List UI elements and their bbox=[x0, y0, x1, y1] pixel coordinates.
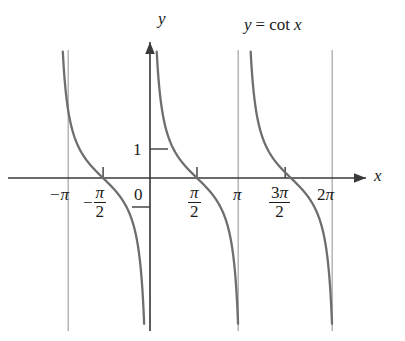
x-tick-label-three-half-pi: 3π2 bbox=[269, 186, 290, 223]
y-tick-label-one: 1 bbox=[133, 141, 142, 158]
plot-canvas bbox=[0, 0, 405, 341]
fraction-denominator: 2 bbox=[94, 203, 107, 221]
y-axis-arrowhead bbox=[145, 42, 155, 54]
fraction-denominator: 2 bbox=[188, 203, 201, 221]
two-glyph: 2 bbox=[317, 185, 326, 204]
fraction: π2 bbox=[188, 184, 201, 221]
fraction: π2 bbox=[94, 184, 107, 221]
x-tick-label-origin: 0 bbox=[134, 186, 143, 203]
pi-glyph: π bbox=[61, 185, 70, 204]
x-tick-label-neg-pi: −π bbox=[50, 186, 69, 205]
function-label-lhs: y bbox=[244, 15, 252, 34]
y-axis-label: y bbox=[158, 10, 166, 27]
x-axis-label: x bbox=[374, 167, 382, 184]
x-tick-label-two-pi: 2π bbox=[317, 186, 334, 203]
function-label: y=cotx bbox=[244, 16, 301, 33]
x-axis-arrowhead bbox=[354, 173, 366, 183]
fraction-numerator: π bbox=[94, 184, 107, 203]
x-tick-label-half-pi: π2 bbox=[188, 186, 201, 223]
fraction: 3π2 bbox=[269, 184, 290, 221]
function-label-variable: x bbox=[294, 15, 302, 34]
pi-glyph: π bbox=[233, 185, 242, 204]
minus-sign-icon: − bbox=[50, 186, 60, 203]
pi-glyph: π bbox=[326, 185, 335, 204]
fraction-numerator: 3π bbox=[269, 184, 290, 203]
cotangent-graph-figure: y x y=cotx 0 1 −π −π2 π2 π 3π2 2π bbox=[0, 0, 405, 341]
fraction-denominator: 2 bbox=[269, 203, 290, 221]
function-label-cot: cot bbox=[269, 15, 290, 34]
x-tick-label-neg-half-pi: −π2 bbox=[83, 186, 106, 223]
function-label-equals: = bbox=[256, 15, 266, 34]
fraction-numerator: π bbox=[188, 184, 201, 203]
x-tick-label-pi: π bbox=[233, 186, 242, 203]
minus-sign-icon: − bbox=[83, 194, 93, 211]
